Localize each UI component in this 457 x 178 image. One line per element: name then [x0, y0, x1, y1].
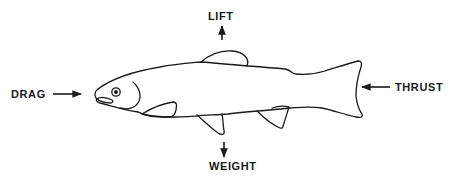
drag-label: DRAG [11, 89, 46, 100]
thrust-label: THRUST [395, 82, 443, 93]
fish-body [95, 61, 362, 117]
pectoral-fin [142, 102, 177, 117]
pelvic-fin [197, 114, 224, 134]
fish-illustration [0, 0, 457, 178]
fish-forces-diagram: LIFT DRAG THRUST WEIGHT [0, 0, 457, 178]
lift-label: LIFT [208, 11, 234, 22]
weight-label: WEIGHT [209, 161, 257, 172]
